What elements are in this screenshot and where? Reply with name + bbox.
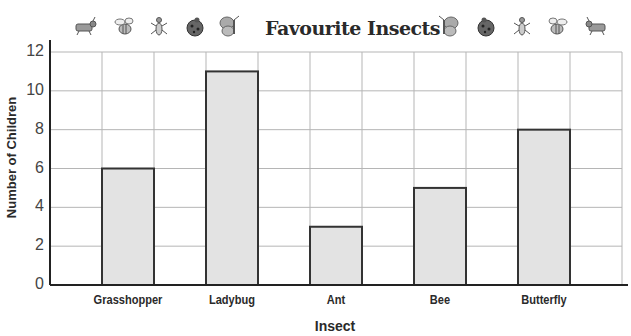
y-tick-label: 8 [22,120,44,138]
y-tick-label: 12 [22,42,44,60]
y-tick-label: 2 [22,236,44,254]
bar-ladybug [206,71,258,285]
x-tick-label: Bee [396,292,484,307]
x-tick-label: Ant [292,292,380,307]
y-tick-label: 0 [22,275,44,293]
y-tick-label: 10 [22,81,44,99]
y-tick-label: 6 [22,159,44,177]
bar-grasshopper [102,169,154,286]
x-tick-label: Ladybug [188,292,276,307]
x-tick-label: Butterfly [500,292,588,307]
y-axis-label: Number of Children [4,93,19,223]
bar-chart-plot [0,0,631,336]
x-axis-label: Insect [300,318,370,334]
bar-ant [310,227,362,285]
x-tick-label: Grasshopper [84,292,172,307]
y-tick-label: 4 [22,197,44,215]
bar-butterfly [518,130,570,285]
bar-bee [414,188,466,285]
